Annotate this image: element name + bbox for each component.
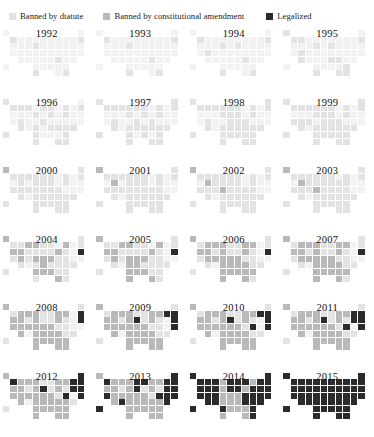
state-tile-ga[interactable] — [336, 207, 343, 213]
state-tile-co[interactable] — [25, 187, 32, 193]
state-tile-ma[interactable] — [78, 112, 85, 118]
state-tile-al[interactable] — [55, 201, 62, 207]
state-tile-nv[interactable] — [111, 317, 118, 323]
state-tile-or[interactable] — [291, 43, 298, 49]
state-tile-ks[interactable] — [126, 331, 133, 337]
year-panel-1992[interactable]: 1992 — [0, 26, 94, 95]
state-tile-or[interactable] — [291, 317, 298, 323]
state-tile-co[interactable] — [119, 50, 126, 56]
state-tile-ca[interactable] — [104, 187, 111, 193]
state-tile-ut[interactable] — [205, 119, 212, 125]
state-tile-id[interactable] — [111, 105, 118, 111]
state-tile-ne[interactable] — [33, 50, 40, 56]
state-tile-tn[interactable] — [48, 57, 55, 63]
state-tile-co[interactable] — [212, 324, 219, 330]
state-tile-va[interactable] — [55, 125, 62, 131]
state-tile-ks[interactable] — [33, 194, 40, 200]
state-tile-ma[interactable] — [78, 386, 85, 392]
state-tile-mo[interactable] — [134, 393, 141, 399]
state-tile-nc[interactable] — [343, 399, 350, 405]
state-tile-ar[interactable] — [321, 399, 328, 405]
state-tile-al[interactable] — [242, 338, 249, 344]
state-tile-ca[interactable] — [197, 324, 204, 330]
state-tile-ak[interactable] — [3, 236, 10, 242]
state-tile-vt[interactable] — [70, 311, 77, 317]
state-tile-ca[interactable] — [291, 256, 298, 262]
state-tile-me[interactable] — [171, 373, 178, 379]
state-tile-tx[interactable] — [33, 413, 40, 419]
state-tile-de[interactable] — [164, 331, 171, 337]
state-tile-ma[interactable] — [78, 180, 85, 186]
state-tile-la[interactable] — [40, 269, 47, 275]
state-tile-tn[interactable] — [235, 194, 242, 200]
state-tile-mi[interactable] — [156, 242, 163, 248]
state-tile-tn[interactable] — [328, 399, 335, 405]
state-tile-mt[interactable] — [212, 311, 219, 317]
state-tile-wa[interactable] — [197, 37, 204, 43]
state-tile-mi[interactable] — [156, 174, 163, 180]
state-tile-pa[interactable] — [63, 317, 70, 323]
state-tile-ne[interactable] — [313, 324, 320, 330]
state-tile-co[interactable] — [25, 393, 32, 399]
state-tile-al[interactable] — [55, 406, 62, 412]
state-tile-ks[interactable] — [33, 125, 40, 131]
state-tile-or[interactable] — [10, 249, 17, 255]
state-tile-ia[interactable] — [321, 317, 328, 323]
state-tile-al[interactable] — [55, 132, 62, 138]
state-tile-ks[interactable] — [313, 331, 320, 337]
state-tile-oh[interactable] — [55, 112, 62, 118]
state-tile-mo[interactable] — [227, 393, 234, 399]
year-panel-2003[interactable]: 2003 — [281, 163, 374, 232]
state-tile-md[interactable] — [250, 50, 257, 56]
state-tile-co[interactable] — [306, 50, 313, 56]
state-tile-wy[interactable] — [212, 317, 219, 323]
state-tile-wy[interactable] — [212, 112, 219, 118]
state-tile-sd[interactable] — [33, 317, 40, 323]
state-tile-ut[interactable] — [18, 187, 25, 193]
state-tile-nj[interactable] — [257, 324, 264, 330]
state-tile-ny[interactable] — [257, 180, 264, 186]
state-tile-mo[interactable] — [134, 50, 141, 56]
state-tile-ne[interactable] — [33, 187, 40, 193]
state-tile-la[interactable] — [227, 406, 234, 412]
state-tile-or[interactable] — [104, 317, 111, 323]
state-tile-ne[interactable] — [33, 119, 40, 125]
state-tile-nj[interactable] — [164, 50, 171, 56]
state-tile-md[interactable] — [63, 256, 70, 262]
state-tile-ut[interactable] — [18, 50, 25, 56]
state-tile-ak[interactable] — [3, 30, 10, 36]
state-tile-ar[interactable] — [134, 57, 141, 63]
state-tile-oh[interactable] — [242, 386, 249, 392]
state-tile-md[interactable] — [343, 119, 350, 125]
state-tile-ar[interactable] — [321, 331, 328, 337]
state-tile-va[interactable] — [336, 399, 343, 405]
state-tile-wa[interactable] — [10, 105, 17, 111]
state-tile-nj[interactable] — [70, 187, 77, 193]
state-tile-az[interactable] — [205, 331, 212, 337]
state-tile-nc[interactable] — [250, 262, 257, 268]
state-tile-nv[interactable] — [18, 112, 25, 118]
state-tile-or[interactable] — [197, 249, 204, 255]
state-tile-ma[interactable] — [78, 249, 85, 255]
state-tile-ky[interactable] — [328, 324, 335, 330]
state-tile-id[interactable] — [205, 105, 212, 111]
state-tile-va[interactable] — [149, 331, 156, 337]
state-tile-az[interactable] — [298, 399, 305, 405]
state-tile-co[interactable] — [306, 393, 313, 399]
state-tile-mt[interactable] — [212, 105, 219, 111]
state-tile-ky[interactable] — [141, 50, 148, 56]
state-tile-me[interactable] — [171, 30, 178, 36]
state-tile-nh[interactable] — [171, 174, 178, 180]
state-tile-co[interactable] — [25, 324, 32, 330]
state-tile-ma[interactable] — [171, 112, 178, 118]
state-tile-ia[interactable] — [321, 180, 328, 186]
state-tile-or[interactable] — [104, 43, 111, 49]
state-tile-wv[interactable] — [336, 50, 343, 56]
state-tile-me[interactable] — [171, 99, 178, 105]
state-tile-id[interactable] — [298, 174, 305, 180]
state-tile-ny[interactable] — [257, 43, 264, 49]
state-tile-hi[interactable] — [190, 406, 197, 412]
state-tile-mt[interactable] — [119, 242, 126, 248]
state-tile-in[interactable] — [48, 180, 55, 186]
state-tile-vt[interactable] — [351, 379, 358, 385]
